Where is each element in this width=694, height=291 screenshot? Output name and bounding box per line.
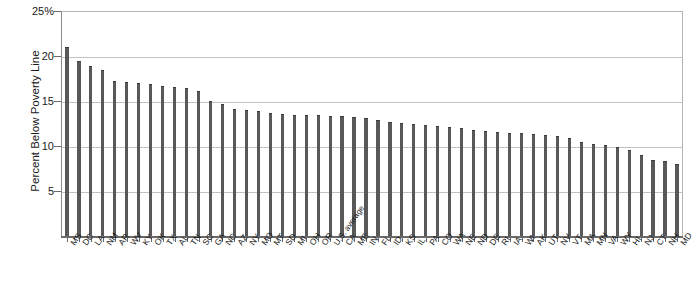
bar-ca: [340, 116, 343, 236]
bar-az: [233, 109, 236, 236]
bar-ok: [149, 84, 152, 236]
y-axis-title: Percent Below Poverty Line: [29, 6, 45, 236]
bar-ks: [400, 123, 403, 236]
bar-ri: [496, 132, 499, 236]
bar-co: [436, 126, 439, 236]
bar-hi: [628, 150, 631, 236]
bar-vt: [568, 138, 571, 236]
bar-u-s-average: [329, 116, 332, 236]
bar-ia: [508, 133, 511, 237]
y-tick-label-20: 20: [14, 51, 54, 61]
bar-ny: [245, 110, 248, 236]
bar-ut: [544, 135, 547, 236]
bar-ma: [580, 142, 583, 236]
y-tick-mark-15: [54, 101, 61, 102]
y-tick-label-15: 15: [14, 96, 54, 106]
bar-ms: [65, 47, 68, 236]
bar-ne: [460, 128, 463, 236]
bar-nj: [640, 155, 643, 236]
bar-nc: [221, 104, 224, 236]
bar-ga: [209, 101, 212, 236]
bar-fl: [376, 120, 379, 236]
bar-in: [364, 118, 367, 236]
bar-nm: [101, 70, 104, 236]
bar-al: [173, 87, 176, 236]
bar-ct: [651, 160, 654, 237]
bar-ak: [532, 134, 535, 236]
bar-mn: [592, 144, 595, 236]
bar-wa: [448, 127, 451, 236]
bar-tx: [161, 86, 164, 236]
bar-de: [484, 131, 487, 236]
bar-or: [317, 115, 320, 236]
y-tick-label-10: 10: [14, 141, 54, 151]
bar-md: [675, 164, 678, 236]
x-axis-tick-labels: MSDCLANMARWVKYOKTXALTNSCGANCAZNYMOMTSDMI…: [61, 242, 691, 291]
bar-wi: [520, 133, 523, 236]
y-tick-label-25: 25%: [14, 6, 54, 16]
bar-oh: [305, 115, 308, 236]
bar-id: [388, 122, 391, 236]
bar-ar: [113, 81, 116, 236]
bar-wy: [616, 147, 619, 236]
y-tick-mark-25: [54, 11, 61, 12]
cropped-header-sliver: [120, 0, 320, 5]
bar-pa: [424, 125, 427, 236]
y-tick-mark-5: [54, 191, 61, 192]
bar-sd: [281, 114, 284, 236]
bar-nd: [472, 130, 475, 236]
bar-la: [89, 66, 92, 236]
y-tick-label-5: 5: [14, 186, 54, 196]
bar-sc: [197, 91, 200, 236]
bar-mi: [293, 115, 296, 237]
bar-dc: [77, 61, 80, 237]
bar-wv: [125, 82, 128, 236]
y-tick-mark-10: [54, 146, 61, 147]
bar-nh: [663, 161, 666, 236]
bar-nv: [556, 136, 559, 236]
bar-mt: [269, 113, 272, 236]
bar-il: [412, 124, 415, 236]
bar-va: [604, 145, 607, 236]
bar-series: [61, 11, 683, 236]
y-tick-mark-20: [54, 56, 61, 57]
bar-ky: [137, 83, 140, 236]
bar-tn: [185, 88, 188, 236]
bar-mo: [257, 111, 260, 236]
